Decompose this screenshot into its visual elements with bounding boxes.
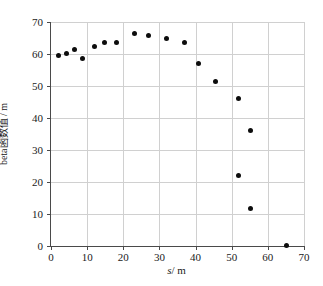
- y-axis-tick: [47, 118, 51, 119]
- scatter-chart-figure: 010203040506070010203040506070 beta函数值 /…: [0, 0, 323, 286]
- gridline-vertical: [304, 22, 305, 246]
- gridline-horizontal: [51, 86, 304, 87]
- gridline-vertical: [232, 22, 233, 246]
- data-point: [164, 36, 169, 41]
- x-axis-tick-label: 60: [262, 251, 273, 264]
- data-point: [196, 61, 201, 66]
- gridline-vertical: [87, 22, 88, 246]
- data-point: [236, 173, 241, 178]
- x-axis-label: s/ m: [50, 264, 303, 277]
- data-point: [182, 40, 187, 45]
- y-axis-tick: [47, 22, 51, 23]
- y-axis-tick: [47, 54, 51, 55]
- x-axis-label-unit: / m: [171, 264, 185, 276]
- y-axis-tick-label: 30: [32, 144, 43, 157]
- y-axis-tick-label: 50: [32, 80, 43, 93]
- gridline-horizontal: [51, 118, 304, 119]
- data-point: [56, 53, 61, 58]
- gridline-horizontal: [51, 54, 304, 55]
- y-axis-label: beta函数值 / m: [0, 72, 10, 134]
- data-point: [114, 40, 119, 45]
- gridline-horizontal: [51, 182, 304, 183]
- x-axis-tick: [123, 246, 124, 250]
- x-axis-tick: [196, 246, 197, 250]
- data-point: [248, 128, 253, 133]
- data-point: [72, 47, 77, 52]
- x-axis-tick: [51, 246, 52, 250]
- y-axis-tick: [47, 150, 51, 151]
- gridline-horizontal: [51, 214, 304, 215]
- y-axis-tick: [47, 246, 51, 247]
- x-axis-tick-label: 50: [226, 251, 237, 264]
- data-point: [248, 206, 253, 211]
- x-axis-tick: [159, 246, 160, 250]
- x-axis-tick-label: 10: [82, 251, 93, 264]
- x-axis-tick: [268, 246, 269, 250]
- y-axis-tick-label: 10: [32, 208, 43, 221]
- gridline-horizontal: [51, 150, 304, 151]
- x-axis-tick-label: 0: [48, 251, 54, 264]
- x-axis-tick-label: 40: [190, 251, 201, 264]
- x-axis-tick: [87, 246, 88, 250]
- data-point: [213, 79, 218, 84]
- gridline-vertical: [159, 22, 160, 246]
- gridline-vertical: [196, 22, 197, 246]
- y-axis-tick: [47, 86, 51, 87]
- data-point: [64, 51, 69, 56]
- data-point: [80, 56, 85, 61]
- x-axis-tick: [232, 246, 233, 250]
- gridline-vertical: [268, 22, 269, 246]
- y-axis-tick-label: 20: [32, 176, 43, 189]
- x-axis-tick-label: 70: [299, 251, 310, 264]
- y-axis-label-text: beta函数值 / m: [0, 103, 10, 165]
- y-axis-tick: [47, 214, 51, 215]
- data-point: [132, 31, 137, 36]
- gridline-horizontal: [51, 22, 304, 23]
- x-axis-tick: [304, 246, 305, 250]
- y-axis-tick: [47, 182, 51, 183]
- data-point: [236, 96, 241, 101]
- data-point: [102, 40, 107, 45]
- x-axis-tick-label: 30: [154, 251, 165, 264]
- y-axis-tick-label: 60: [32, 48, 43, 61]
- y-axis-tick-label: 40: [32, 112, 43, 125]
- data-point: [146, 33, 151, 38]
- y-axis-tick-label: 0: [38, 240, 44, 253]
- plot-area: 010203040506070010203040506070: [50, 22, 304, 247]
- x-axis-tick-label: 20: [118, 251, 129, 264]
- gridline-vertical: [123, 22, 124, 246]
- data-point: [92, 44, 97, 49]
- y-axis-tick-label: 70: [32, 16, 43, 29]
- data-point: [284, 243, 289, 248]
